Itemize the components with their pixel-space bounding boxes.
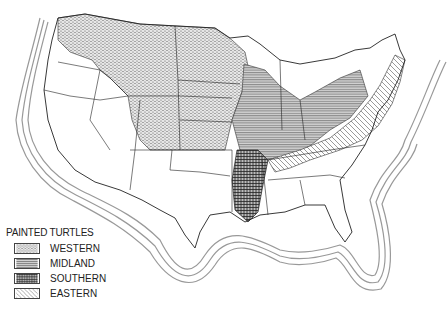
legend-title: PAINTED TURTLES — [6, 227, 146, 238]
legend-item-midland: MIDLAND — [6, 256, 146, 271]
western-range — [58, 14, 248, 150]
southern-range — [232, 150, 268, 222]
legend-item-western: WESTERN — [6, 241, 146, 256]
western-swatch-icon — [14, 243, 40, 254]
southern-swatch-icon — [14, 273, 40, 284]
eastern-swatch-icon — [14, 288, 40, 299]
legend-label: MIDLAND — [50, 258, 95, 269]
legend-item-southern: SOUTHERN — [6, 271, 146, 286]
legend-label: WESTERN — [50, 243, 100, 254]
map-legend: PAINTED TURTLES WESTERN MIDLAND SOUTHERN… — [6, 227, 146, 301]
midland-swatch-icon — [14, 258, 40, 269]
legend-item-eastern: EASTERN — [6, 286, 146, 301]
legend-label: SOUTHERN — [50, 273, 106, 284]
legend-label: EASTERN — [50, 288, 97, 299]
